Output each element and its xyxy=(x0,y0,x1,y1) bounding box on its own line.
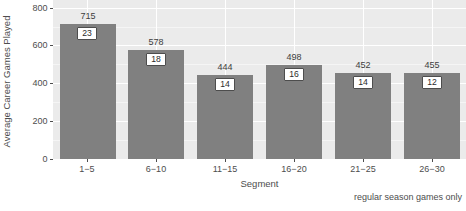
y-axis-tick-label: 200 xyxy=(32,116,47,126)
bar-value-label: 455 xyxy=(404,60,460,70)
y-axis-tick-label: 0 xyxy=(42,154,47,164)
y-axis-tick-label: 800 xyxy=(32,3,47,13)
bar-value-label: 498 xyxy=(266,52,322,62)
bar xyxy=(60,24,116,159)
y-axis-title-text: Average Career Games Played xyxy=(2,16,13,148)
y-axis-tick: 400 xyxy=(32,77,53,89)
bar-value-label: 578 xyxy=(128,37,184,47)
x-axis-tick-label: 11−15 xyxy=(195,164,255,174)
bar-value-label: 715 xyxy=(60,11,116,21)
gridline-major-horizontal xyxy=(53,8,466,9)
bar-count-badge: 16 xyxy=(284,68,304,81)
bar-count-badge: 14 xyxy=(215,78,235,91)
bar-value-label: 444 xyxy=(197,62,253,72)
bar-count-badge: 23 xyxy=(77,27,97,40)
x-axis-title: Segment xyxy=(53,178,466,189)
x-axis-tick-mark xyxy=(87,159,88,162)
x-axis-tick-label: 21−25 xyxy=(333,164,393,174)
y-axis-tick: 200 xyxy=(32,115,53,127)
y-axis-tick-label: 600 xyxy=(32,40,47,50)
x-axis-tick-mark xyxy=(432,159,433,162)
x-axis-tick-label: 6−10 xyxy=(126,164,186,174)
x-axis-tick-label: 26−30 xyxy=(402,164,462,174)
bar-value-label: 452 xyxy=(335,60,391,70)
x-axis-tick-mark xyxy=(363,159,364,162)
x-axis-tick-label: 16−20 xyxy=(264,164,324,174)
y-axis-tick: 600 xyxy=(32,39,53,51)
y-axis-title: Average Career Games Played xyxy=(0,0,14,163)
x-axis-tick-mark xyxy=(294,159,295,162)
y-axis-tick: 0 xyxy=(42,153,53,165)
y-axis-tick-labels: 0200400600800 xyxy=(14,0,53,165)
x-axis-tick-mark xyxy=(225,159,226,162)
bar-chart-figure: First-Round Selections between 2000 and … xyxy=(0,0,466,211)
y-axis-tick-label: 400 xyxy=(32,78,47,88)
bar-count-badge: 14 xyxy=(353,76,373,89)
y-axis-tick: 800 xyxy=(32,2,53,14)
chart-caption: regular season games only xyxy=(354,192,462,202)
x-axis-tick-mark xyxy=(156,159,157,162)
plot-panel: 715235781844414498164521445512 xyxy=(53,0,466,159)
bar-count-badge: 18 xyxy=(146,53,166,66)
bar-count-badge: 12 xyxy=(422,76,442,89)
bar xyxy=(128,50,184,159)
x-axis-tick-label: 1−5 xyxy=(57,164,117,174)
x-axis-tick-labels: 1−56−1011−1516−2021−2526−30 xyxy=(53,159,466,179)
